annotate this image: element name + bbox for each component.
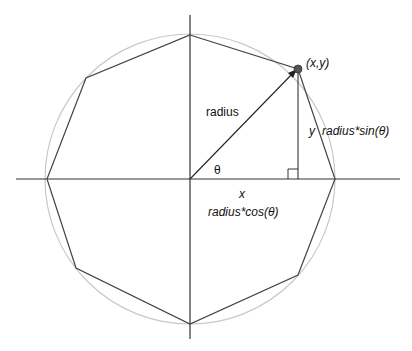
point-marker [294, 65, 302, 73]
y-label: y [309, 125, 315, 137]
x-label: x [239, 188, 245, 200]
radius-label: radius [206, 106, 239, 118]
polar-coordinate-diagram [0, 0, 412, 351]
y-formula-label: radius*sin(θ) [322, 125, 389, 137]
right-angle-marker [288, 169, 298, 179]
theta-label: θ [214, 164, 221, 176]
point-label: (x,y) [306, 57, 329, 69]
radius-vector [190, 71, 295, 179]
x-formula-label: radius*cos(θ) [208, 206, 279, 218]
